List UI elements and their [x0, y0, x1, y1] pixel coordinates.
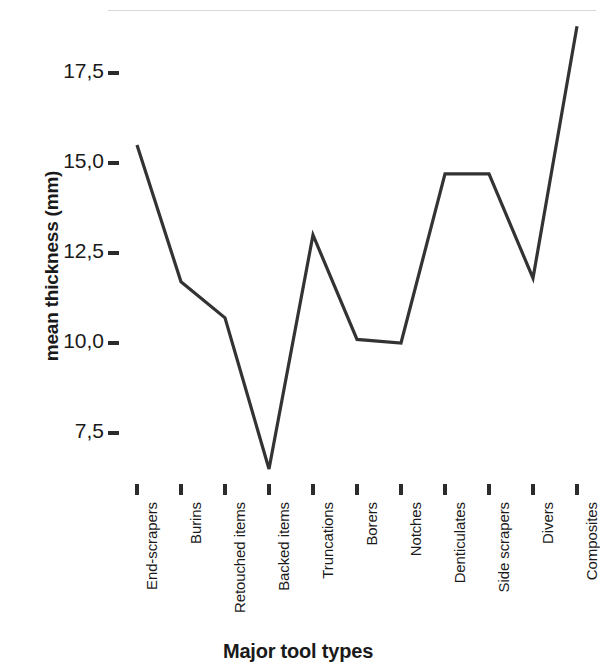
x-tick-mark: [135, 484, 139, 495]
x-axis-title: Major tool types: [0, 640, 596, 663]
x-tick-mark: [531, 484, 535, 495]
x-category-label: Retouched items: [231, 502, 248, 613]
x-category-label: Truncations: [319, 502, 336, 579]
x-category-label: Burins: [187, 502, 204, 544]
x-tick-mark: [355, 484, 359, 495]
x-category-label: Divers: [539, 502, 556, 544]
x-tick-mark: [223, 484, 227, 495]
x-category-label: Composites: [583, 502, 600, 580]
x-tick-mark: [179, 484, 183, 495]
x-tick-mark: [443, 484, 447, 495]
x-tick-mark: [311, 484, 315, 495]
x-category-label: End-scrapers: [143, 502, 160, 590]
x-category-label: Denticulates: [451, 502, 468, 583]
x-category-label: Backed items: [275, 502, 292, 591]
line-series-svg: [0, 0, 596, 500]
x-tick-mark: [575, 484, 579, 495]
x-category-label: Notches: [407, 502, 424, 556]
x-category-label: Borers: [363, 502, 380, 546]
x-category-label: Side scrapers: [495, 502, 512, 592]
x-tick-mark: [399, 484, 403, 495]
data-line-mean-thickness: [137, 26, 577, 469]
plot-area: [0, 0, 596, 500]
x-tick-mark: [487, 484, 491, 495]
x-tick-mark: [267, 484, 271, 495]
